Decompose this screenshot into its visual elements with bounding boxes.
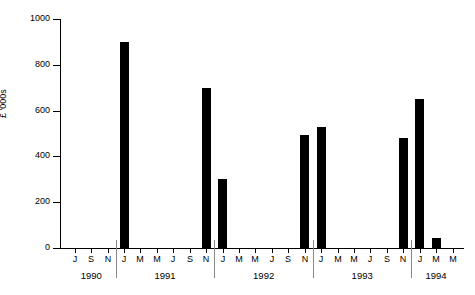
- x-axis-tick-label: J: [363, 255, 377, 264]
- x-axis-year-label: 1994: [416, 271, 456, 281]
- x-axis-tick: [338, 248, 339, 253]
- x-axis-tick-label: J: [117, 255, 131, 264]
- y-axis-tick-label: 400: [0, 151, 50, 160]
- x-axis-tick: [239, 248, 240, 253]
- x-axis-tick-label: M: [446, 255, 460, 264]
- x-axis-tick: [91, 248, 92, 253]
- x-axis-year-label: 1992: [244, 271, 284, 281]
- y-axis-tick: [53, 111, 60, 112]
- x-axis-tick-label: S: [281, 255, 295, 264]
- x-axis-year-separator: [116, 240, 117, 278]
- x-axis-tick: [157, 248, 158, 253]
- bar: [317, 127, 326, 248]
- x-axis-tick: [370, 248, 371, 253]
- x-axis-tick-label: J: [314, 255, 328, 264]
- y-axis-tick-label: 1000: [0, 14, 50, 23]
- bar: [300, 135, 309, 248]
- x-axis-tick: [305, 248, 306, 253]
- x-axis-tick: [124, 248, 125, 253]
- x-axis-tick: [255, 248, 256, 253]
- x-axis-year-separator: [411, 240, 412, 278]
- x-axis-tick-label: M: [347, 255, 361, 264]
- x-axis-year-label: 1991: [145, 271, 185, 281]
- x-axis-tick: [75, 248, 76, 253]
- x-axis-tick: [321, 248, 322, 253]
- x-axis-tick-label: N: [199, 255, 213, 264]
- x-axis-tick: [420, 248, 421, 253]
- y-axis-tick: [53, 156, 60, 157]
- x-axis-tick-label: J: [216, 255, 230, 264]
- y-axis-tick: [53, 248, 60, 249]
- x-axis-tick: [354, 248, 355, 253]
- x-axis-tick-label: S: [380, 255, 394, 264]
- x-axis-tick-label: M: [150, 255, 164, 264]
- x-axis-tick-label: J: [166, 255, 180, 264]
- bar: [202, 88, 211, 248]
- x-axis-tick: [387, 248, 388, 253]
- y-axis-tick: [53, 202, 60, 203]
- x-axis-tick-label: N: [101, 255, 115, 264]
- bar: [399, 138, 408, 248]
- x-axis-tick-label: J: [265, 255, 279, 264]
- x-axis-year-label: 1990: [71, 271, 111, 281]
- x-axis-tick-label: S: [84, 255, 98, 264]
- x-axis-tick-label: N: [298, 255, 312, 264]
- x-axis-tick: [108, 248, 109, 253]
- x-axis-tick: [206, 248, 207, 253]
- x-axis-year-label: 1993: [342, 271, 382, 281]
- x-axis-tick: [173, 248, 174, 253]
- x-axis-tick: [272, 248, 273, 253]
- y-axis-tick-label: 200: [0, 197, 50, 206]
- x-axis-tick-label: N: [396, 255, 410, 264]
- x-axis-tick-label: M: [232, 255, 246, 264]
- x-axis-tick-label: M: [331, 255, 345, 264]
- y-axis-tick-label: 800: [0, 60, 50, 69]
- x-axis-tick: [223, 248, 224, 253]
- x-axis-tick: [140, 248, 141, 253]
- x-axis-tick: [453, 248, 454, 253]
- x-axis-tick-label: M: [429, 255, 443, 264]
- y-axis-tick: [53, 19, 60, 20]
- x-axis-tick-label: J: [413, 255, 427, 264]
- x-axis-year-separator: [214, 240, 215, 278]
- x-axis-tick-label: S: [183, 255, 197, 264]
- y-axis-tick-label: 0: [0, 243, 50, 252]
- x-axis-year-separator: [313, 240, 314, 278]
- bar: [218, 179, 227, 248]
- bar: [415, 99, 424, 248]
- x-axis-tick: [190, 248, 191, 253]
- y-axis-tick-label: 600: [0, 106, 50, 115]
- x-axis-tick-label: M: [248, 255, 262, 264]
- x-axis-tick-label: M: [133, 255, 147, 264]
- x-axis-tick-label: J: [68, 255, 82, 264]
- x-axis-tick: [403, 248, 404, 253]
- bar: [432, 238, 441, 248]
- plot-area: [60, 19, 464, 248]
- y-axis-tick: [53, 65, 60, 66]
- bar-chart: £ '000s 02004006008001000 JSNJMMJSNJMMJS…: [0, 0, 475, 295]
- x-axis-tick: [288, 248, 289, 253]
- x-axis-tick: [436, 248, 437, 253]
- bar: [120, 42, 129, 248]
